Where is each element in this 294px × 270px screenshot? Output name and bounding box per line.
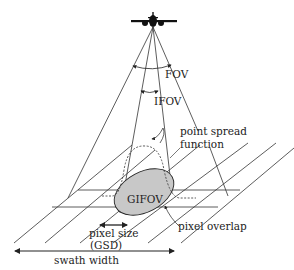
psf-leader	[170, 148, 180, 158]
gifov-label: GIFOV	[127, 193, 163, 205]
psf-label-line1: point spread	[180, 125, 247, 137]
pixel-overlap-label: pixel overlap	[178, 220, 247, 232]
fov-label: FOV	[165, 68, 189, 80]
psf-pointer	[152, 128, 164, 143]
ifov-arc	[141, 91, 158, 93]
pixel-size-label-line1: pixel size	[89, 227, 138, 239]
swath-width-label: swath width	[54, 254, 119, 266]
diagram-canvas: FOV IFOV point spread function GIFOV pix…	[0, 0, 294, 270]
airplane-icon	[131, 12, 177, 27]
ifov-label: IFOV	[154, 95, 182, 107]
pixel-size-label-line2: (GSD)	[90, 239, 122, 251]
diagram-svg: FOV IFOV point spread function GIFOV pix…	[0, 0, 294, 270]
psf-label-line2: function	[180, 138, 224, 150]
